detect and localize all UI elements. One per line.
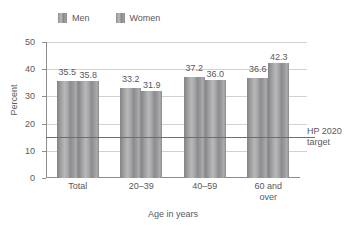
y-axis-tick-label: 20 — [25, 119, 35, 129]
legend-label-women: Women — [130, 13, 161, 23]
bar-men-0 — [57, 81, 78, 178]
hp-2020-target-label-line1: HP 2020 — [307, 126, 342, 137]
hp-2020-target-label: HP 2020 target — [307, 126, 342, 148]
bar-value-label: 36.6 — [249, 64, 267, 74]
x-axis-category-label: 20–39 — [129, 181, 154, 192]
bar-value-label: 35.5 — [58, 67, 76, 77]
gridline-right-stub — [300, 151, 307, 152]
x-axis-category-labels: Total20–3940–5960 and over — [46, 181, 300, 211]
y-axis-tick-label: 40 — [25, 64, 35, 74]
legend-label-men: Men — [72, 13, 90, 23]
bar-men-2 — [184, 77, 205, 178]
y-axis-tick: 0 — [42, 178, 46, 179]
y-axis-title: Percent — [9, 70, 19, 130]
bar-group: 37.236.0 — [184, 42, 226, 178]
bar-group: 33.231.9 — [120, 42, 162, 178]
bar-value-label: 37.2 — [185, 63, 203, 73]
x-axis-category-label: 60 and over — [254, 181, 282, 203]
bar-group: 36.642.3 — [247, 42, 289, 178]
x-axis-title: Age in years — [46, 209, 300, 219]
bar-value-label: 35.8 — [79, 70, 97, 80]
y-axis-tick-label: 0 — [30, 173, 35, 183]
legend-item-women: Women — [116, 13, 161, 23]
bar-chart: Men Women 01020304050 35.535.833.231.937… — [0, 0, 360, 232]
x-axis-category-label: 40–59 — [192, 181, 217, 192]
gridline-right-stub — [300, 42, 307, 43]
bar-series-container: 35.535.833.231.937.236.036.642.3 — [46, 42, 300, 178]
y-axis-tick-label: 30 — [25, 91, 35, 101]
bar-value-label: 31.9 — [143, 80, 161, 90]
hp-2020-target-line — [46, 137, 300, 138]
gridline-right-stub — [300, 124, 307, 125]
bar-women-2 — [205, 80, 226, 178]
legend-swatch-women — [116, 13, 125, 23]
bar-value-label: 36.0 — [206, 69, 224, 79]
bar-men-1 — [120, 88, 141, 178]
bar-men-3 — [247, 78, 268, 178]
gridline-right-stub — [300, 69, 307, 70]
bar-women-1 — [141, 91, 162, 178]
y-axis-tick-label: 10 — [25, 146, 35, 156]
bar-value-label: 33.2 — [122, 74, 140, 84]
legend-item-men: Men — [58, 13, 90, 23]
bar-women-3 — [268, 63, 289, 178]
hp-2020-target-label-line2: target — [307, 137, 342, 148]
x-axis-category-label: Total — [68, 181, 87, 192]
gridline-right-stub — [300, 96, 307, 97]
chart-legend: Men Women — [58, 11, 160, 25]
bar-women-0 — [78, 81, 99, 178]
bar-value-label: 42.3 — [270, 52, 288, 62]
legend-swatch-men — [58, 13, 67, 23]
plot-area: 01020304050 35.535.833.231.937.236.036.6… — [46, 42, 300, 178]
y-axis-tick-label: 50 — [25, 37, 35, 47]
bar-group: 35.535.8 — [57, 42, 99, 178]
